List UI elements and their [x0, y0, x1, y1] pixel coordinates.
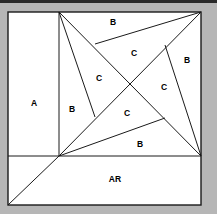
label-b-right: B — [184, 55, 190, 65]
bottom-rect-fill — [8, 156, 201, 205]
label-b-left: B — [69, 104, 75, 114]
label-c-right: C — [161, 82, 167, 92]
label-b-top: B — [110, 17, 116, 27]
label-a: A — [31, 98, 37, 108]
label-c-top: C — [131, 48, 137, 58]
label-b-bottom: B — [137, 139, 143, 149]
label-ar: AR — [109, 174, 121, 184]
diagram-page: A AR B B B B C C C C — [0, 0, 217, 214]
label-c-bottom: C — [124, 108, 130, 118]
geometric-figure: A AR B B B B C C C C — [0, 0, 217, 214]
label-c-left: C — [96, 73, 102, 83]
upper-square-fill — [8, 12, 201, 156]
